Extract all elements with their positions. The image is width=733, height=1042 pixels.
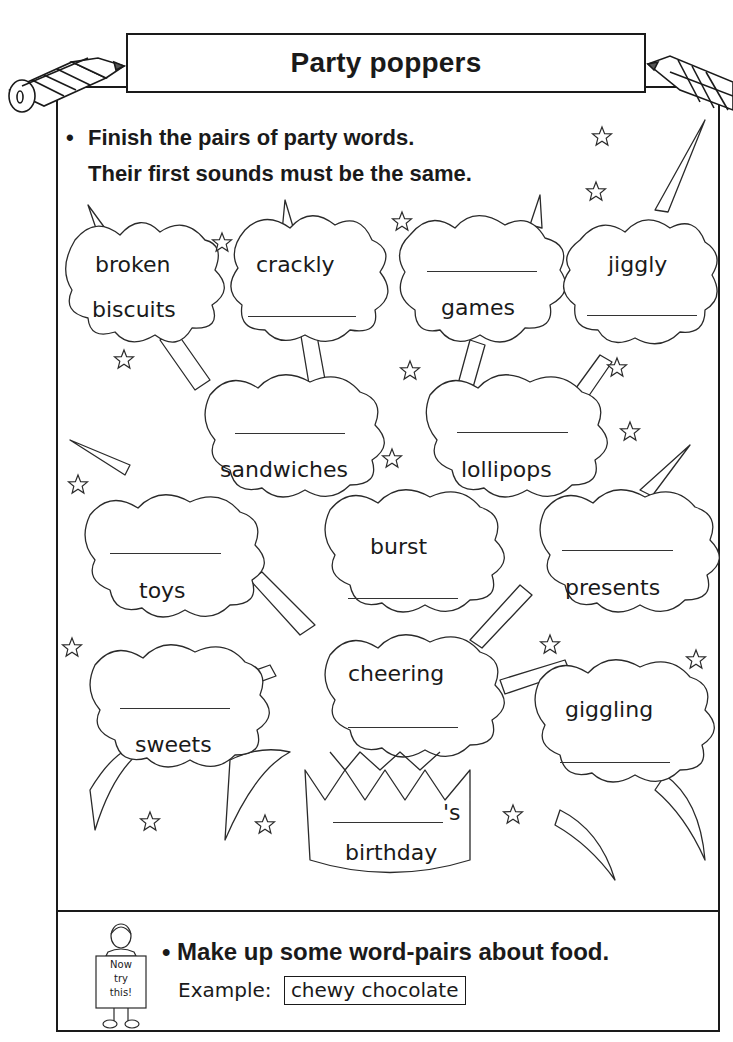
burst-word-burst: burst xyxy=(370,534,427,559)
burst-word-toys: toys xyxy=(139,578,186,603)
burst-word-sandwiches: sandwiches xyxy=(220,457,348,482)
burst-word-crackly: crackly xyxy=(256,252,335,277)
pencil-icon xyxy=(2,50,130,120)
page-title: Party poppers xyxy=(291,47,482,79)
title-banner: Party poppers xyxy=(126,33,646,93)
burst-word-games: games xyxy=(441,295,515,320)
burst-word-birthday: birthday xyxy=(345,840,437,865)
sign-line-1: Now xyxy=(96,958,146,972)
answer-blank-presents[interactable] xyxy=(562,550,673,551)
now-try-this-sign: Now try this! xyxy=(96,958,146,1000)
sign-line-3: this! xyxy=(96,986,146,1000)
burst-word-broken: broken xyxy=(95,252,170,277)
burst-word-giggling: giggling xyxy=(565,697,653,722)
burst-word-jiggly: jiggly xyxy=(608,252,667,277)
sign-line-2: try xyxy=(96,972,146,986)
burst-word-sweets: sweets xyxy=(135,732,212,757)
burst-word-biscuits: biscuits xyxy=(92,297,176,322)
answer-blank-giggling[interactable] xyxy=(560,762,670,763)
answer-blank-crackly[interactable] xyxy=(248,316,356,317)
answer-blank-toys[interactable] xyxy=(110,553,221,554)
answer-blank-sweets[interactable] xyxy=(120,708,230,709)
answer-blank-jiggly[interactable] xyxy=(587,315,697,316)
answer-blank-birthday-name[interactable] xyxy=(333,822,443,823)
burst-word-lollipops: lollipops xyxy=(461,457,552,482)
party-popper-artwork xyxy=(0,0,733,1042)
burst-word-cheering: cheering xyxy=(348,661,444,686)
answer-blank-cheering[interactable] xyxy=(348,727,458,728)
possessive-suffix: 's xyxy=(443,800,461,825)
answer-blank-sandwiches[interactable] xyxy=(235,433,345,434)
answer-blank-games[interactable] xyxy=(427,271,537,272)
pencil-icon xyxy=(640,50,733,120)
burst-word-presents: presents xyxy=(565,575,660,600)
answer-blank-lollipops[interactable] xyxy=(457,432,568,433)
answer-blank-burst[interactable] xyxy=(348,598,458,599)
